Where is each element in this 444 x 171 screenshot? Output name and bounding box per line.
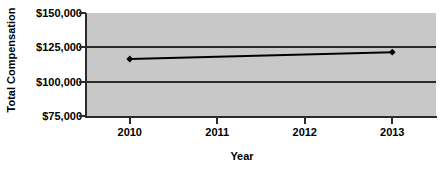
line-chart: Total Compensation $150,000$125,000$100,… xyxy=(0,0,444,171)
x-tick-label: 2012 xyxy=(293,126,317,138)
x-tick-label: 2010 xyxy=(118,126,142,138)
x-tick-label: 2013 xyxy=(380,126,404,138)
x-tick-label: 2011 xyxy=(205,126,229,138)
x-axis-tick xyxy=(304,118,306,124)
x-axis-title: Year xyxy=(0,150,444,162)
x-axis-tick xyxy=(129,118,131,124)
x-axis-tick xyxy=(216,118,218,124)
x-axis-tick xyxy=(391,118,393,124)
y-tick-label: $150,000 xyxy=(22,8,82,19)
y-axis-tick-labels: $150,000$125,000$100,000$75,000 xyxy=(22,0,82,171)
y-axis-tick xyxy=(79,81,86,83)
y-axis-tick xyxy=(79,115,86,117)
y-tick-label: $125,000 xyxy=(22,42,82,53)
y-axis-tick xyxy=(79,46,86,48)
data-point-marker xyxy=(126,56,133,63)
y-axis-title-label: Total Compensation xyxy=(5,8,17,113)
y-tick-label: $100,000 xyxy=(22,76,82,87)
y-axis-title: Total Compensation xyxy=(0,0,22,120)
series-line xyxy=(130,52,393,59)
y-tick-label: $75,000 xyxy=(22,111,82,122)
data-series-layer xyxy=(86,13,436,116)
y-axis-tick xyxy=(79,12,86,14)
x-axis-title-label: Year xyxy=(230,150,253,162)
x-axis-line xyxy=(85,116,437,118)
data-point-marker xyxy=(389,49,396,56)
